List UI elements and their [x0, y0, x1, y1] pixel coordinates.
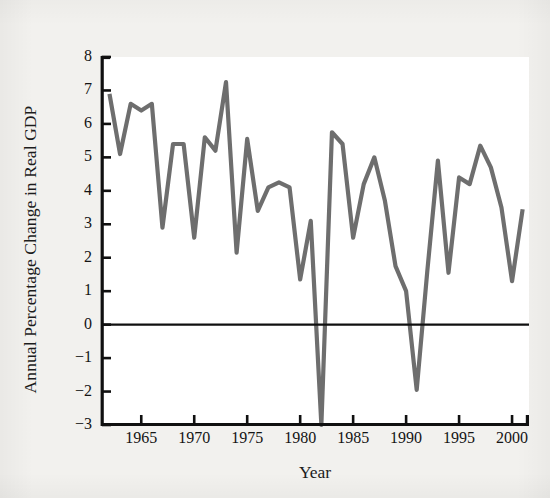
y-tick-label-2: 2	[58, 248, 92, 266]
y-tick-label-8: 8	[58, 47, 92, 65]
x-axis-title: Year	[101, 462, 529, 483]
y-tick-label-0: 0	[58, 315, 92, 333]
y-axis-title: Annual Percentage Change in Real GDP	[14, 0, 48, 498]
gdp-growth-figure: −3−2−1012345678 196519701975198019851990…	[0, 0, 550, 498]
y-axis-title-text: Annual Percentage Change in Real GDP	[21, 105, 42, 393]
x-tick-label-1970: 1970	[164, 429, 224, 447]
x-tick-label-1975: 1975	[217, 429, 277, 447]
y-tick-label-7: 7	[58, 80, 92, 98]
y-tick-label-6: 6	[58, 114, 92, 132]
y-tick-label--3: −3	[58, 415, 92, 433]
x-tick-label-2000: 2000	[482, 429, 542, 447]
y-tick-label-5: 5	[58, 147, 92, 165]
plot-background	[101, 57, 529, 425]
x-tick-label-1965: 1965	[111, 429, 171, 447]
x-tick-label-1985: 1985	[323, 429, 383, 447]
x-tick-label-1995: 1995	[429, 429, 489, 447]
y-tick-label-3: 3	[58, 214, 92, 232]
y-tick-label-4: 4	[58, 181, 92, 199]
y-tick-label--2: −2	[58, 382, 92, 400]
x-tick-label-1990: 1990	[376, 429, 436, 447]
y-tick-label-1: 1	[58, 281, 92, 299]
y-tick-label--1: −1	[58, 348, 92, 366]
x-tick-label-1980: 1980	[270, 429, 330, 447]
